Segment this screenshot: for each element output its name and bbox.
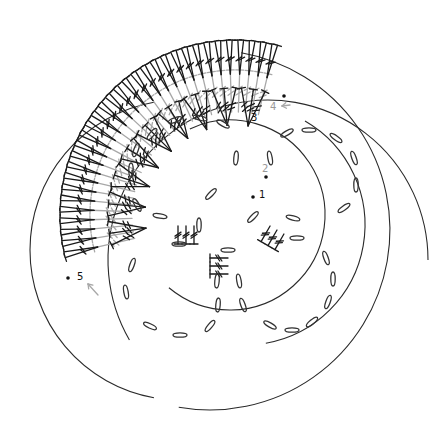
chain-stitch-icon <box>214 274 220 288</box>
stitch-stem <box>60 218 94 220</box>
chain-stitch-icon <box>233 151 239 165</box>
stitch-stem <box>103 155 141 172</box>
stitch-fan <box>60 40 282 262</box>
stitch-stem <box>140 68 160 95</box>
stitch-stem <box>92 191 133 198</box>
stitch-stem <box>145 125 171 151</box>
slip-stitch-dot-icon <box>251 195 255 199</box>
chain-stitch-icon <box>350 151 359 166</box>
stitch-hatch <box>174 124 175 131</box>
stitch-hatch <box>156 140 157 147</box>
stitch-hatch <box>190 98 194 104</box>
stitch-hatch <box>114 111 115 118</box>
chain-stitch-icon <box>204 319 216 333</box>
stitch-stem <box>60 210 94 212</box>
stitch-stem <box>90 218 132 219</box>
stitch-top-bar <box>108 200 109 208</box>
round-1-label: 1 <box>259 189 265 200</box>
stitch-hatch <box>151 138 152 145</box>
chain-stitch-icon <box>123 285 130 300</box>
stitch-hatch <box>127 98 128 105</box>
chain-stitch-icon <box>322 251 331 266</box>
stitch-stem <box>79 135 110 148</box>
chain-stitch-icon <box>143 321 158 331</box>
round-2-label: 2 <box>262 163 268 174</box>
chain-stitch-icon <box>305 316 319 328</box>
stitch-hatch <box>252 110 259 111</box>
mid-arc <box>169 120 325 310</box>
slip-stitch-dot-icon <box>264 175 268 179</box>
stitch-top-bar <box>120 155 122 163</box>
chain-stitch-icon <box>337 202 351 214</box>
stitch-top-bar <box>220 88 228 89</box>
stitch-stem <box>267 45 278 77</box>
stitch-stem <box>230 40 232 74</box>
chain-stitch-icon <box>286 214 301 222</box>
stitch-hatch <box>108 119 109 126</box>
chain-stitch-icon <box>215 298 221 312</box>
stitch-stem <box>105 97 132 118</box>
stitch-hatch <box>156 133 157 140</box>
stitch-hatch <box>171 121 172 128</box>
stitch-stem <box>65 172 97 183</box>
chain-stitch-icon <box>197 218 201 232</box>
stitch-hatch <box>254 106 261 107</box>
stitch-hatch <box>151 123 153 130</box>
stitch-hatch <box>125 195 126 202</box>
round-5-label: 5 <box>77 271 83 282</box>
stitch-stem <box>122 82 146 106</box>
stitch-stem <box>109 93 132 118</box>
chain-stitch-icon <box>285 328 299 332</box>
stitch-hatch <box>134 91 136 98</box>
slip-stitch-dot-icon <box>66 276 70 280</box>
chain-stitch-icon <box>246 210 259 223</box>
chain-stitch-icon <box>324 295 333 310</box>
chain-stitch-icon <box>331 272 335 286</box>
chain-stitch-icon <box>329 132 343 144</box>
chain-stitches <box>123 114 359 337</box>
chain-stitch-icon <box>280 128 294 139</box>
chain-stitch-icon <box>239 298 248 313</box>
stitch-hatch <box>93 146 94 153</box>
chain-stitch-icon <box>128 258 137 273</box>
stitch-stem <box>238 70 239 112</box>
chain-stitch-icon <box>290 236 304 240</box>
chain-stitch-icon <box>236 274 243 289</box>
chain-stitch-icon <box>263 320 277 331</box>
stitch-hatch <box>123 152 124 159</box>
stitch-hatch <box>121 104 123 111</box>
stitch-top-bar <box>258 240 265 244</box>
stitch-hatch <box>192 109 194 116</box>
stitch-hatch <box>120 169 122 176</box>
stitch-stem <box>238 40 240 74</box>
slip-stitch-dot-icon <box>282 94 286 98</box>
stitch-hatch <box>120 106 121 113</box>
round-4-label: 4 <box>270 101 276 112</box>
stitch-top-bar <box>265 244 272 248</box>
chain-stitch-icon <box>204 187 217 200</box>
stitch-hatch <box>145 128 146 135</box>
chain-stitch-icon <box>173 333 187 337</box>
stitch-top-bar <box>271 248 278 252</box>
chain-stitch-icon <box>221 248 235 252</box>
chain-stitch-icon <box>302 128 316 132</box>
crochet-chart: 12345 <box>0 0 447 436</box>
chain-stitch-icon <box>153 213 168 220</box>
stitch-stem <box>64 178 98 183</box>
round-3-label: 3 <box>251 112 257 123</box>
stitch-stem <box>155 59 168 90</box>
